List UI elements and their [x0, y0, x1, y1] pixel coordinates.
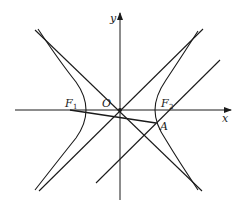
origin-label: O [102, 97, 111, 110]
focus-left-subscript: 1 [73, 103, 77, 111]
y-axis-label: y [109, 12, 117, 25]
segment-F1-A [70, 110, 156, 123]
hyperbola-diagram: y x O F 1 F 2 A [0, 0, 241, 213]
focus-right-label: F [160, 97, 169, 110]
focus-right-subscript: 2 [169, 103, 173, 111]
focus-left-label: F [64, 97, 73, 110]
point-a-label: A [159, 120, 168, 133]
line-through-F2 [96, 60, 220, 183]
origin-point [118, 108, 122, 112]
x-axis-label: x [222, 112, 229, 125]
